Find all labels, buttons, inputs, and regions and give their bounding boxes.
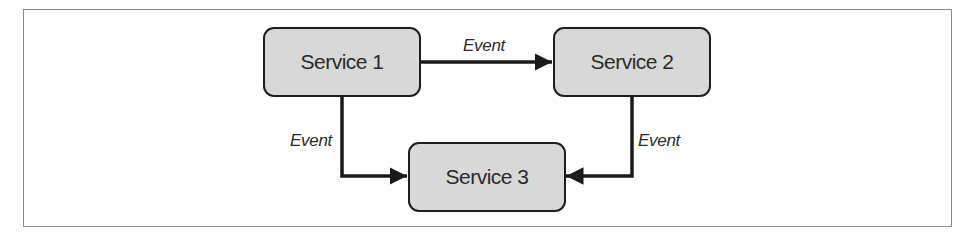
node-label: Service 1 <box>300 50 383 74</box>
node-service-3: Service 3 <box>408 142 566 212</box>
node-label: Service 2 <box>590 50 673 74</box>
node-service-1: Service 1 <box>263 27 421 97</box>
node-label: Service 3 <box>445 165 528 189</box>
edge-label-service1-service2: Event <box>463 36 505 56</box>
edge-service2-service3 <box>566 97 632 176</box>
edge-service1-service3 <box>342 97 407 176</box>
edge-label-service2-service3: Event <box>638 131 680 151</box>
node-service-2: Service 2 <box>553 27 711 97</box>
edge-label-service1-service3: Event <box>290 131 332 151</box>
